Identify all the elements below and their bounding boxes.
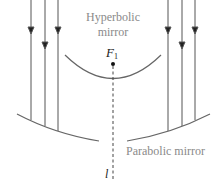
telescope-diagram: Hyperbolic mirror F1 Parabolic mirror l bbox=[0, 0, 219, 191]
hyperbolic-label-1: Hyperbolic bbox=[86, 10, 140, 24]
focus-label: F1 bbox=[105, 45, 118, 61]
parabolic-label: Parabolic mirror bbox=[126, 144, 205, 158]
arrow-down-icon bbox=[28, 27, 34, 34]
incoming-rays-right bbox=[165, 0, 198, 131]
hyperbolic-label-2: mirror bbox=[98, 25, 129, 39]
axis-label: l bbox=[105, 167, 109, 181]
arrow-down-icon bbox=[192, 27, 198, 34]
arrow-down-icon bbox=[165, 27, 171, 34]
incoming-rays-left bbox=[28, 0, 61, 131]
arrow-down-icon bbox=[55, 27, 61, 34]
focus-subscript: 1 bbox=[114, 52, 118, 61]
arrow-down-icon bbox=[42, 42, 48, 49]
arrow-down-icon bbox=[179, 42, 185, 49]
focus-point bbox=[111, 62, 115, 66]
